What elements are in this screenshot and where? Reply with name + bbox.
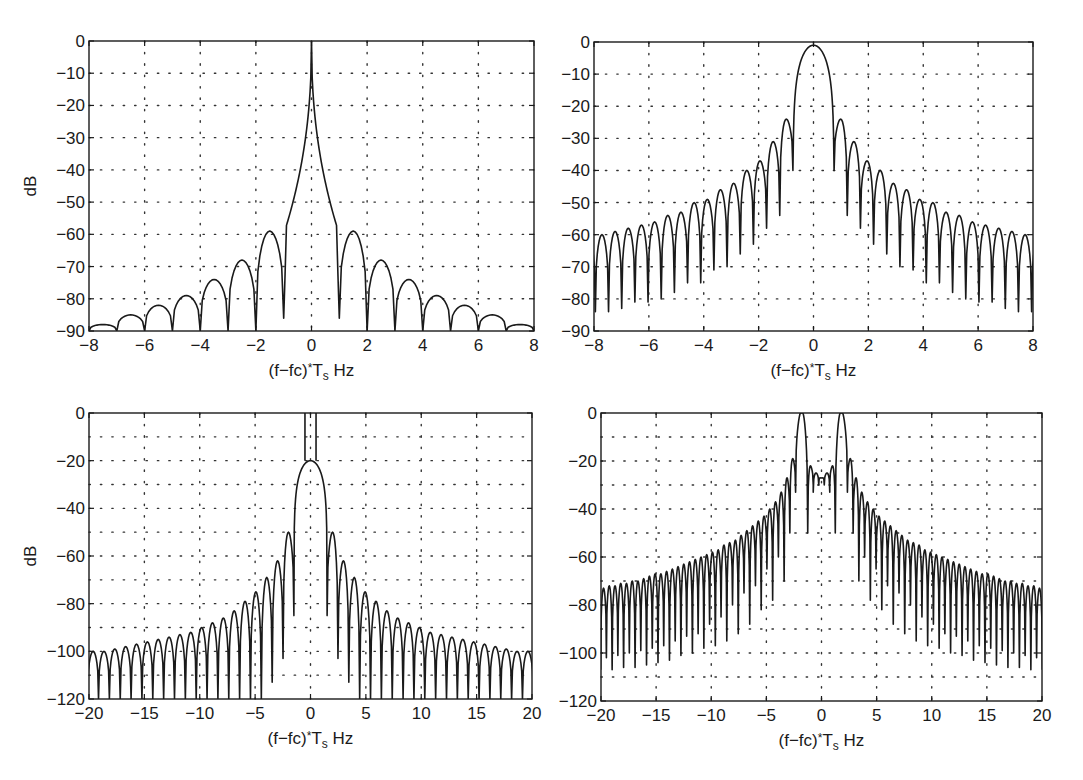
x-tick-label: −15: [642, 706, 671, 725]
x-tick-label: 20: [1033, 706, 1052, 725]
x-tick-label: 5: [872, 706, 881, 725]
x-tick-label: 15: [977, 706, 996, 725]
x-tick-label: 10: [922, 706, 941, 725]
grid-lines: [601, 413, 1042, 701]
axes-box: [601, 413, 1042, 701]
x-tick-label: −20: [587, 706, 616, 725]
x-tick-label: −5: [757, 706, 776, 725]
y-tick-label: 0: [588, 404, 597, 423]
y-tick-label: −100: [559, 644, 597, 663]
x-tick-label: 0: [817, 706, 826, 725]
y-tick-label: −60: [568, 548, 597, 567]
y-tick-label: −20: [568, 452, 597, 471]
x-tick-label: −10: [697, 706, 726, 725]
y-tick-label: −40: [568, 500, 597, 519]
plot-area-bottom-right: 0−20−40−60−80−100−120−20−15−10−505101520: [0, 0, 1083, 780]
y-tick-label: −80: [568, 596, 597, 615]
x-axis-label: (f−fc)*Ts Hz: [779, 731, 865, 751]
y-axis: 0−20−40−60−80−100−120: [559, 404, 1042, 711]
